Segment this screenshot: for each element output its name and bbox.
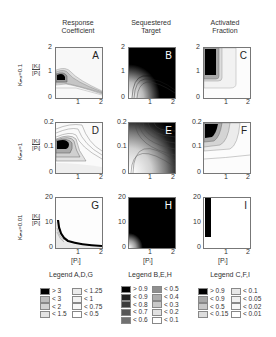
title-line: Fraction [195, 27, 255, 35]
x-tick: 1 [224, 98, 228, 105]
legend-item: < 0.01 [231, 310, 261, 318]
y-tick: 10 [118, 218, 126, 225]
legend-text: < 0.6 [133, 316, 148, 323]
legend-item: < 0.05 [231, 295, 261, 303]
panel-c: C [203, 47, 251, 99]
legend-text: < 0.8 [133, 301, 148, 308]
legend-adg-col1: > 3 < 3 < 2 < 1.5 [40, 287, 67, 318]
legend-swatch [40, 311, 50, 318]
legend-swatch [72, 288, 82, 295]
legend-item: < 0.02 [231, 303, 261, 311]
x-tick: 1 [76, 173, 80, 180]
y-axis-label: [Kᵢ] [Pᵢ] [32, 138, 40, 151]
legend-text: < 1.5 [52, 310, 67, 317]
legend-text: < 0.15 [210, 310, 228, 317]
y-tick: 0 [49, 168, 53, 175]
panel-label: C [240, 50, 247, 61]
panel-label: F [241, 125, 247, 136]
legend-swatch [121, 294, 131, 301]
legend-item: < 0.6 [121, 316, 148, 324]
panel-label: D [92, 125, 99, 136]
x-tick: 1 [76, 98, 80, 105]
legend-swatch [231, 288, 241, 295]
panel-g: G [55, 197, 103, 249]
panel-label: A [92, 50, 99, 61]
legend-text: < 0.02 [243, 303, 261, 310]
legend-text: < 1.25 [84, 287, 102, 294]
title-line: Target [121, 27, 181, 35]
y-tick: 2 [48, 43, 52, 50]
y-label-denominator: [Pᵢ] [32, 69, 40, 76]
y-tick: 20 [45, 193, 53, 200]
y-tick: 20 [193, 193, 201, 200]
panel-d: D [55, 122, 103, 174]
y-tick: 0 [122, 243, 126, 250]
legend-swatch [40, 296, 50, 303]
legend-item: < 0.9 [121, 293, 148, 301]
panel-b: B [128, 47, 176, 99]
legend-item: < 2 [40, 303, 67, 311]
legend-beh-title: Legend B,E,H [110, 271, 190, 278]
panel-label: I [244, 200, 247, 211]
y-tick: 0 [48, 93, 52, 100]
y-tick: 1 [121, 67, 125, 74]
panel-i-heatmap [204, 198, 250, 248]
panel-a: A [55, 47, 103, 99]
legend-item: < 0.1 [231, 287, 261, 295]
legend-item: > 0.9 [121, 285, 148, 293]
legend-swatch [40, 303, 50, 310]
y-axis-label: [Kᵢ] [Pᵢ] [32, 213, 40, 226]
y-tick: 10 [193, 218, 201, 225]
x-tick: 1 [148, 98, 152, 105]
legend-item: < 0.5 [152, 285, 179, 293]
y-axis-label: [Kᵢ] [Pᵢ] [32, 63, 40, 76]
legend-text: < 0.5 [210, 303, 225, 310]
panel-f: F [203, 122, 251, 174]
y-tick: 10 [45, 218, 53, 225]
y-tick: 0 [197, 168, 201, 175]
legend-swatch [72, 303, 82, 310]
y-tick: 1 [48, 67, 52, 74]
x-tick: 2 [171, 173, 175, 180]
legend-text: < 0.5 [164, 285, 179, 292]
y-tick: 0 [196, 93, 200, 100]
legend-cfi-title: Legend C,F,I [190, 271, 270, 278]
y-tick: 0.2 [192, 118, 202, 125]
legend-adg-col2: < 1.25 < 1 < 0.75 < 0.5 [72, 287, 102, 318]
legend-cfi-col1: > 0.9 < 0.9 < 0.5 < 0.15 [198, 287, 228, 318]
legend-item: < 1 [72, 295, 102, 303]
x-tick: 2 [171, 98, 175, 105]
legend-swatch [231, 296, 241, 303]
panel-label: B [165, 50, 172, 61]
legend-item: < 0.7 [121, 308, 148, 316]
column-title-response-coefficient: Response Coefficient [48, 19, 108, 35]
legend-item: < 0.5 [72, 310, 102, 318]
legend-text: > 0.9 [210, 287, 225, 294]
y-tick: 1 [196, 67, 200, 74]
title-line: Activated [195, 19, 255, 27]
y-tick: 0.1 [117, 142, 127, 149]
column-title-activated-fraction: Activated Fraction [195, 19, 255, 35]
legend-item: < 0.9 [198, 295, 228, 303]
legend-swatch [231, 303, 241, 310]
legend-adg-title: Legend A,D,G [31, 271, 111, 278]
x-tick: 2 [246, 173, 250, 180]
column-title-sequestered-target: Sequestered Target [121, 19, 181, 35]
y-label-denominator: [Pᵢ] [32, 219, 40, 226]
x-axis-label: [Pᵢ] [218, 257, 228, 264]
legend-item: > 3 [40, 287, 67, 295]
legend-item: < 3 [40, 295, 67, 303]
legend-swatch [152, 286, 162, 293]
x-tick: 2 [99, 248, 103, 255]
legend-swatch [198, 296, 208, 303]
legend-swatch [121, 309, 131, 316]
legend-item: < 0.2 [152, 308, 179, 316]
legend-swatch [231, 311, 241, 318]
legend-swatch [152, 301, 162, 308]
legend-text: < 0.01 [243, 310, 261, 317]
legend-swatch [121, 317, 131, 324]
panel-i: I [203, 197, 251, 249]
legend-swatch [121, 286, 131, 293]
legend-text: < 0.75 [84, 303, 102, 310]
row-label-kma-1: Kₘₐ=1 [16, 143, 23, 160]
